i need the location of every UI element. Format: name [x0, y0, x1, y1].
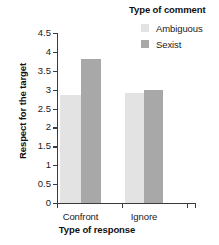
x-category-label: Ignore [131, 211, 157, 222]
y-tick-label: 3 [46, 85, 51, 95]
y-tick-label: 0.5 [38, 179, 51, 189]
y-tick-label: 1 [46, 160, 51, 170]
x-tick [122, 203, 123, 208]
x-axis-title: Type of response [0, 224, 194, 235]
x-axis-line [57, 203, 195, 204]
y-tick-label: 1.5 [38, 142, 51, 152]
y-axis-title-wrap: Respect for the target [4, 0, 20, 210]
y-tick-label: 4.5 [38, 28, 51, 38]
y-tick [53, 90, 57, 91]
legend-swatch-ambiguous [141, 24, 149, 32]
x-tick [187, 203, 188, 208]
y-tick [53, 146, 57, 147]
legend-title: Type of comment [129, 4, 219, 15]
bar-ignore-sexist [144, 90, 163, 203]
y-tick-label: 2.5 [38, 104, 51, 114]
y-axis-title: Respect for the target [17, 16, 31, 206]
y-tick [53, 127, 57, 128]
y-tick [53, 52, 57, 53]
legend-label-ambiguous: Ambiguous [156, 23, 203, 34]
y-tick-label: 4 [46, 47, 51, 57]
x-tick [57, 203, 58, 208]
y-tick [53, 33, 57, 34]
y-tick [53, 71, 57, 72]
bar-ignore-ambiguous [125, 93, 144, 203]
x-category-label: Confront [63, 211, 99, 222]
y-tick-label: 2 [46, 123, 51, 133]
y-tick-label: 3.5 [38, 66, 51, 76]
y-tick [53, 165, 57, 166]
y-axis-line [57, 33, 58, 203]
bar-confront-sexist [81, 59, 102, 203]
y-tick [53, 184, 57, 185]
y-tick-label: 0 [46, 198, 51, 208]
y-tick [53, 109, 57, 110]
bar-chart: Type of comment Ambiguous Sexist Respect… [0, 0, 219, 245]
bar-confront-ambiguous [60, 95, 81, 203]
x-tick [195, 203, 196, 208]
plot-area: 00.511.522.533.544.5 ConfrontIgnore [58, 33, 195, 203]
